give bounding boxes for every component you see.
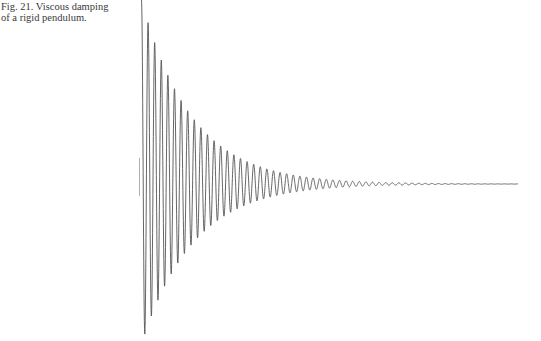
oscillation-trace: [142, 0, 519, 334]
damped-oscillation-plot: [0, 0, 541, 341]
